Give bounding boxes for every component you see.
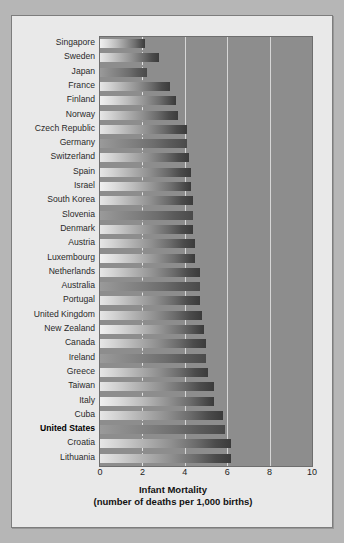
x-tick-label: 10 [307, 467, 317, 477]
plot-area [99, 36, 313, 467]
bar-series [100, 37, 312, 466]
bar-row [100, 166, 312, 180]
bar [100, 325, 204, 334]
bar-row [100, 294, 312, 308]
category-label: Denmark [12, 223, 95, 233]
bar [100, 139, 187, 148]
bar [100, 397, 214, 406]
bar [100, 339, 206, 348]
bar [100, 53, 159, 62]
bar [100, 111, 178, 120]
category-label: South Korea [12, 194, 95, 204]
bar [100, 153, 189, 162]
category-label: United Kingdom [12, 309, 95, 319]
bar-row [100, 109, 312, 123]
category-axis-labels: SingaporeSwedenJapanFranceFinlandNorwayC… [12, 36, 95, 465]
bar [100, 354, 206, 363]
bar [100, 182, 191, 191]
bar [100, 239, 195, 248]
bar [100, 254, 195, 263]
category-label: Lithuania [12, 452, 95, 462]
x-axis-title-line2: (number of deaths per 1,000 births) [12, 496, 334, 508]
x-tick-label: 0 [97, 467, 102, 477]
bar [100, 225, 193, 234]
category-label: Japan [12, 66, 95, 76]
category-label: Greece [12, 366, 95, 376]
bar [100, 382, 214, 391]
category-label: Finland [12, 94, 95, 104]
category-label: Netherlands [12, 266, 95, 276]
bar-row [100, 94, 312, 108]
category-label: New Zealand [12, 323, 95, 333]
bar [100, 311, 202, 320]
bar-row [100, 194, 312, 208]
category-label: Luxembourg [12, 252, 95, 262]
bar-row [100, 51, 312, 65]
bar-row [100, 180, 312, 194]
bar-row [100, 380, 312, 394]
bar-row [100, 395, 312, 409]
bar-row [100, 437, 312, 451]
category-label: Canada [12, 337, 95, 347]
category-label: Spain [12, 166, 95, 176]
bar [100, 368, 208, 377]
category-label: Italy [12, 395, 95, 405]
category-label: Norway [12, 109, 95, 119]
bar-row [100, 80, 312, 94]
bar [100, 125, 187, 134]
category-label: Croatia [12, 437, 95, 447]
bar [100, 96, 176, 105]
bar-row [100, 409, 312, 423]
bar-row [100, 366, 312, 380]
bar-row [100, 266, 312, 280]
bar-row [100, 252, 312, 266]
bar [100, 282, 200, 291]
category-label: Australia [12, 280, 95, 290]
category-label: Sweden [12, 51, 95, 61]
category-label: Germany [12, 137, 95, 147]
bar-row [100, 309, 312, 323]
category-label: Taiwan [12, 380, 95, 390]
category-label: Israel [12, 180, 95, 190]
category-label: Switzerland [12, 151, 95, 161]
bar-row [100, 209, 312, 223]
category-label: Slovenia [12, 209, 95, 219]
category-label: France [12, 80, 95, 90]
bar-row [100, 151, 312, 165]
chart-figure: SingaporeSwedenJapanFranceFinlandNorwayC… [11, 15, 333, 528]
bar [100, 68, 147, 77]
bar-row [100, 137, 312, 151]
x-axis-tick-labels: 0246810 [99, 467, 313, 483]
bar-row [100, 452, 312, 466]
bar [100, 82, 170, 91]
x-tick-label: 4 [182, 467, 187, 477]
bar [100, 296, 200, 305]
bar [100, 411, 223, 420]
category-label: Ireland [12, 352, 95, 362]
category-label: Singapore [12, 37, 95, 47]
x-tick-label: 2 [140, 467, 145, 477]
bar [100, 454, 231, 463]
bar [100, 268, 200, 277]
bar-row [100, 323, 312, 337]
bar-row [100, 66, 312, 80]
bar-row [100, 280, 312, 294]
category-label: Czech Republic [12, 123, 95, 133]
bar-row [100, 337, 312, 351]
bar [100, 196, 193, 205]
bar-row [100, 423, 312, 437]
category-label: United States [12, 423, 95, 433]
bar [100, 211, 193, 220]
bar [100, 39, 145, 48]
category-label: Portugal [12, 294, 95, 304]
category-label: Austria [12, 237, 95, 247]
bar-row [100, 223, 312, 237]
bar-row [100, 123, 312, 137]
category-label: Cuba [12, 409, 95, 419]
x-axis-title-line1: Infant Mortality [12, 484, 334, 496]
bar [100, 425, 225, 434]
bar-row [100, 37, 312, 51]
x-axis-title: Infant Mortality (number of deaths per 1… [12, 484, 334, 508]
x-tick-label: 8 [267, 467, 272, 477]
bar [100, 439, 231, 448]
